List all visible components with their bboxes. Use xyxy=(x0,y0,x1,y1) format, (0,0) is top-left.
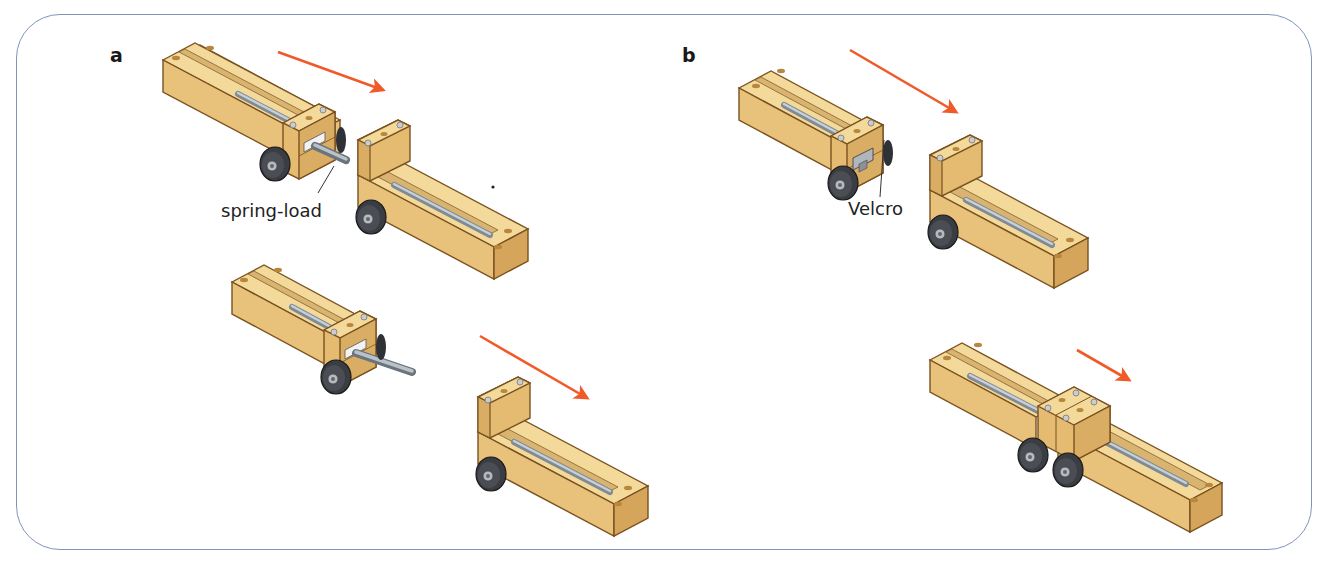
panel-b xyxy=(739,50,1222,532)
arrow-velocity-b1 xyxy=(850,50,956,112)
arrow-velocity-b2 xyxy=(1077,350,1129,380)
diagram-illustration xyxy=(0,0,1332,567)
cart-stationary-top xyxy=(356,120,528,279)
stray-dot xyxy=(491,185,494,188)
panel-a xyxy=(163,43,648,536)
cart-stationary-after xyxy=(476,377,648,536)
cart-spring-after xyxy=(232,265,412,394)
cart-velcro-moving xyxy=(739,69,893,200)
carts-joined xyxy=(930,343,1222,532)
cart-spring-moving-top xyxy=(163,43,346,181)
arrow-velocity-a1 xyxy=(278,52,383,90)
leader-line-spring-load xyxy=(318,166,334,193)
cart-stationary-b-top xyxy=(928,135,1088,288)
